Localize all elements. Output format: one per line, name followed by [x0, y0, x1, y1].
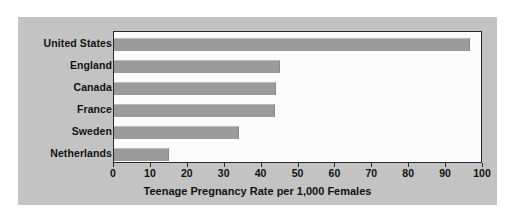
- x-axis-tick-label: 0: [110, 167, 116, 179]
- x-axis-tick-label: 90: [439, 167, 451, 179]
- plot-area: [113, 31, 482, 163]
- bars-container: [114, 32, 481, 162]
- bar: [114, 60, 280, 73]
- chart-panel: United StatesEnglandCanadaFranceSwedenNe…: [18, 17, 497, 205]
- bar: [114, 104, 275, 117]
- category-label: Netherlands: [18, 147, 112, 159]
- x-axis-tick-label: 100: [473, 167, 491, 179]
- x-axis-tick-label: 80: [402, 167, 414, 179]
- x-axis-label: Teenage Pregnancy Rate per 1,000 Females: [18, 185, 497, 197]
- x-axis-tick-label: 20: [181, 167, 193, 179]
- bar: [114, 148, 169, 161]
- category-label: France: [18, 103, 112, 115]
- category-label: United States: [18, 37, 112, 49]
- x-axis-tick-label: 50: [292, 167, 304, 179]
- category-label: England: [18, 59, 112, 71]
- x-axis-tick-label: 10: [144, 167, 156, 179]
- category-label: Canada: [18, 81, 112, 93]
- category-label-column: United StatesEnglandCanadaFranceSwedenNe…: [18, 31, 112, 163]
- bar: [114, 126, 239, 139]
- x-axis-tick-label: 30: [218, 167, 230, 179]
- x-axis-tick-label: 70: [365, 167, 377, 179]
- figure: United StatesEnglandCanadaFranceSwedenNe…: [0, 0, 514, 221]
- bar: [114, 38, 470, 51]
- x-axis-tick-label: 40: [255, 167, 267, 179]
- category-label: Sweden: [18, 125, 112, 137]
- bar: [114, 82, 276, 95]
- x-axis-tick-label: 60: [329, 167, 341, 179]
